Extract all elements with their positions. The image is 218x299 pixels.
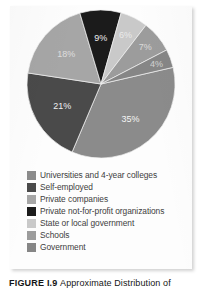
pie-chart-svg: 35%21%18%9%6%7%4% (16, 8, 186, 162)
legend-item-private-not-for-profit[interactable]: Private not-for-profit organizations (27, 206, 187, 218)
legend-item-label: Schools (40, 231, 69, 240)
figure-caption-text: Approximate Distribution of (60, 278, 171, 288)
legend-item-label: Private companies (40, 195, 108, 204)
legend-item-label: State or local government (40, 219, 134, 228)
pie-slice-value-label: 4% (150, 59, 163, 69)
legend-item-label: Private not-for-profit organizations (40, 207, 164, 216)
pie-slice-value-label: 21% (53, 101, 71, 111)
pie-slice-value-label: 35% (121, 114, 139, 124)
legend-swatch-icon (27, 195, 36, 204)
legend-item-state-or-local-government[interactable]: State or local government (27, 218, 187, 230)
legend-item-private-companies[interactable]: Private companies (27, 194, 187, 206)
pie-slice-value-label: 18% (57, 49, 75, 59)
legend-swatch-icon (27, 219, 36, 228)
legend-item-schools[interactable]: Schools (27, 230, 187, 242)
pie-slice-value-label: 6% (119, 30, 132, 40)
legend-item-government[interactable]: Government (27, 242, 187, 254)
pie-chart: 35%21%18%9%6%7%4% (10, 8, 192, 164)
legend-swatch-icon (27, 231, 36, 240)
figure-panel: 35%21%18%9%6%7%4% Universities and 4-yea… (10, 6, 192, 269)
figure-caption: FIGURE I.9 Approximate Distribution of (9, 278, 217, 289)
figure-container: 35%21%18%9%6%7%4% Universities and 4-yea… (0, 0, 218, 299)
chart-legend: Universities and 4-year colleges Self-em… (27, 170, 187, 254)
legend-item-label: Self-employed (40, 183, 93, 192)
legend-swatch-icon (27, 183, 36, 192)
pie-slice-value-label: 7% (139, 42, 152, 52)
legend-item-label: Government (40, 243, 86, 252)
legend-item-label: Universities and 4-year colleges (40, 171, 157, 180)
legend-swatch-icon (27, 207, 36, 216)
legend-item-universities[interactable]: Universities and 4-year colleges (27, 170, 187, 182)
figure-caption-label: FIGURE I.9 (9, 278, 58, 288)
legend-swatch-icon (27, 171, 36, 180)
pie-slice-value-label: 9% (94, 33, 107, 43)
legend-swatch-icon (27, 243, 36, 252)
legend-item-self-employed[interactable]: Self-employed (27, 182, 187, 194)
